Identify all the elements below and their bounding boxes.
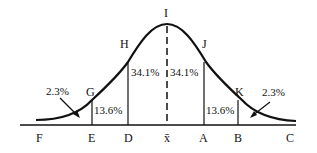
normal-curve-diagram: G H I J K 2.3% 13.6% 34.1% 34.1% 13.6% 2… xyxy=(0,0,317,153)
point-K: K xyxy=(235,85,244,99)
pct-left-tail: 2.3% xyxy=(46,85,69,97)
pct-right-tail: 2.3% xyxy=(262,86,285,98)
axis-F: F xyxy=(36,131,43,145)
pct-left-outer: 13.6% xyxy=(94,104,122,116)
point-H: H xyxy=(120,37,129,51)
axis-mean: x̄ xyxy=(164,131,170,145)
point-J: J xyxy=(202,37,207,51)
axis-A: A xyxy=(199,131,208,145)
pct-right-outer: 13.6% xyxy=(206,104,234,116)
point-G: G xyxy=(86,85,95,99)
bell-curve xyxy=(36,24,296,121)
axis-C: C xyxy=(286,131,294,145)
point-I: I xyxy=(164,6,168,20)
pct-right-inner: 34.1% xyxy=(170,66,198,78)
pct-left-inner: 34.1% xyxy=(131,66,159,78)
axis-E: E xyxy=(88,131,95,145)
axis-D: D xyxy=(124,131,133,145)
axis-B: B xyxy=(234,131,242,145)
